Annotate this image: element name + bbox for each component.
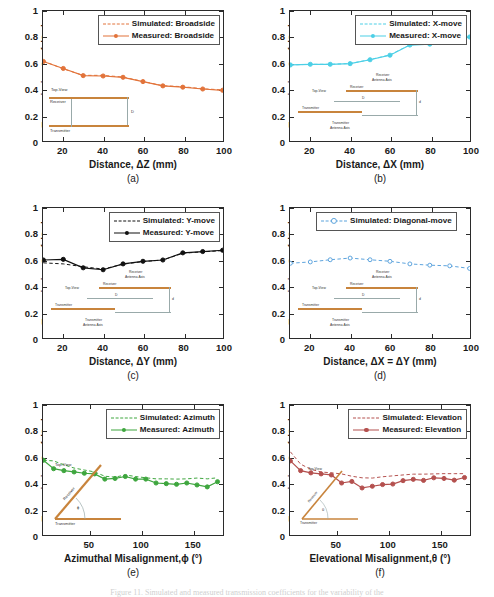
legend: Simulated: ElevationMeasured: Elevation bbox=[348, 409, 467, 439]
x-tick-label: 150 bbox=[432, 539, 448, 550]
inset-distance-arrow bbox=[127, 97, 128, 127]
data-point-marker bbox=[121, 262, 125, 266]
data-point-marker bbox=[421, 478, 425, 482]
inset-label-distance: D bbox=[362, 96, 364, 100]
inset-label-transmitter: Transmitter bbox=[302, 106, 319, 110]
data-point-marker bbox=[185, 481, 189, 485]
data-point-marker bbox=[201, 87, 205, 91]
inset-label-transmitter: Transmitter bbox=[50, 128, 70, 133]
legend-label: Measured: Broadside bbox=[132, 30, 214, 42]
data-point-marker bbox=[42, 258, 45, 262]
inset-label-top-view: Top-View bbox=[51, 87, 67, 92]
data-point-marker bbox=[348, 256, 352, 260]
figure-panel-grid: Transmission Coef.,|S21| Top-ViewReceive… bbox=[0, 0, 494, 597]
panel-c-label: (c) bbox=[127, 370, 139, 381]
legend: Simulated: Diagonal-move bbox=[316, 212, 457, 231]
data-point-marker bbox=[448, 264, 452, 268]
x-tick-label: 20 bbox=[304, 342, 315, 353]
legend-label: Measured: Azimuth bbox=[140, 424, 214, 436]
y-tick-label: 1 bbox=[280, 5, 285, 16]
x-tick-label: 60 bbox=[385, 342, 396, 353]
legend-item: Simulated: Elevation bbox=[353, 412, 462, 424]
inset-diagram-xmove: ReceiverAntenna AxisTop-ViewReceiverDTra… bbox=[298, 73, 428, 135]
series-line bbox=[43, 250, 222, 270]
y-tick-label: 0.8 bbox=[272, 425, 285, 436]
data-point-marker bbox=[368, 58, 372, 62]
data-point-marker bbox=[348, 62, 352, 66]
data-point-marker bbox=[289, 63, 292, 67]
y-tick-label: 0.2 bbox=[272, 307, 285, 318]
panel-c-axes: ReceiverAntenna AxisTop-ViewReceiverDTra… bbox=[42, 207, 224, 339]
panel-e: Transmission Coef.,|S21| Top-ViewReceive… bbox=[0, 394, 247, 597]
data-point-marker bbox=[181, 251, 185, 255]
data-point-marker bbox=[289, 261, 292, 265]
legend-swatch bbox=[353, 425, 379, 434]
data-point-marker bbox=[205, 485, 209, 489]
y-tick-label: 0.2 bbox=[25, 504, 38, 515]
x-tick-label: 100 bbox=[216, 342, 232, 353]
legend-swatch bbox=[360, 19, 386, 28]
panel-c: Transmission Coef.,|S21| ReceiverAntenna… bbox=[0, 197, 247, 394]
data-point-marker bbox=[141, 80, 145, 84]
inset-label-receiver: Receiver bbox=[350, 85, 363, 89]
inset-label-receiver: Receiver bbox=[103, 282, 116, 286]
inset-label-offset: d bbox=[419, 297, 421, 301]
data-point-marker bbox=[452, 478, 456, 482]
legend-item: Measured: Y-move bbox=[114, 227, 215, 239]
legend: Simulated: AzimuthMeasured: Azimuth bbox=[106, 409, 220, 439]
data-point-marker bbox=[181, 85, 185, 89]
inset-label-rx-axis-2: Antenna Axis bbox=[372, 275, 392, 279]
data-point-marker bbox=[221, 88, 224, 92]
panel-b-plot: Transmission Coef.,|S21| ReceiverAntenna… bbox=[289, 10, 471, 142]
inset-axis-extension bbox=[362, 115, 418, 116]
legend-label: Simulated: Y-move bbox=[143, 215, 215, 227]
x-tick-label: 80 bbox=[425, 342, 436, 353]
inset-label-tx-axis-1: Transmitter bbox=[85, 318, 102, 322]
y-tick-label: 0 bbox=[280, 531, 285, 542]
panel-b-label: (b) bbox=[374, 173, 386, 184]
inset-distance-arrow bbox=[87, 298, 153, 299]
x-tick-label: 60 bbox=[385, 145, 396, 156]
inset-receiver-bar bbox=[346, 287, 418, 289]
legend-swatch bbox=[103, 31, 129, 40]
y-tick-label: 0.8 bbox=[272, 31, 285, 42]
legend: Simulated: X-moveMeasured: X-move bbox=[355, 15, 467, 45]
data-point-marker bbox=[121, 75, 125, 79]
y-tick-label: 0.4 bbox=[272, 281, 285, 292]
inset-transmitter-bar bbox=[49, 125, 129, 127]
inset-label-top-view: Top-View bbox=[312, 286, 326, 290]
inset-diagram-azimuth: Top-ViewReceiverϕTransmitter bbox=[49, 461, 145, 533]
panel-f-plot: Transmission Coef.,|S21| Top-ViewReceive… bbox=[289, 404, 471, 536]
y-tick-label: 0.8 bbox=[272, 228, 285, 239]
inset-label-rx-axis-1: Receiver bbox=[376, 270, 389, 274]
inset-label-transmitter: Transmitter bbox=[302, 303, 319, 307]
data-point-marker bbox=[462, 475, 466, 479]
panel-f-axes: Top-ViewReceiverθTransmitterSimulated: E… bbox=[289, 404, 471, 536]
panel-a-axes: Top-ViewReceiverDTransmitterSimulated: B… bbox=[42, 10, 224, 142]
y-tick-label: 1 bbox=[280, 399, 285, 410]
inset-label-distance: D bbox=[362, 293, 364, 297]
inset-offset-arrow bbox=[416, 287, 417, 313]
data-point-marker bbox=[221, 248, 224, 252]
inset-distance-arrow bbox=[334, 298, 400, 299]
figure-caption: Figure 11. Simulated and measured transm… bbox=[0, 588, 494, 597]
data-point-marker bbox=[61, 257, 65, 261]
inset-label-offset: d bbox=[419, 100, 421, 104]
data-point-marker bbox=[442, 476, 446, 480]
y-tick-label: 0 bbox=[280, 137, 285, 148]
y-tick-label: 1 bbox=[33, 399, 38, 410]
y-tick-label: 0 bbox=[280, 334, 285, 345]
x-tick-label: 50 bbox=[84, 539, 95, 550]
y-tick-label: 0.6 bbox=[25, 254, 38, 265]
x-tick-label: 40 bbox=[344, 342, 355, 353]
x-tick-label: 80 bbox=[178, 342, 189, 353]
legend-label: Measured: Elevation bbox=[382, 424, 461, 436]
data-point-marker bbox=[141, 259, 145, 263]
panel-d-label: (d) bbox=[374, 370, 386, 381]
x-tick-label: 80 bbox=[178, 145, 189, 156]
panel-f-xlabel: Elevational Misalignment,θ (°) bbox=[309, 553, 450, 564]
data-point-marker bbox=[411, 477, 415, 481]
legend-item: Simulated: Diagonal-move bbox=[321, 215, 452, 227]
inset-label-rx-axis-1: Receiver bbox=[376, 73, 389, 77]
x-tick-label: 100 bbox=[380, 539, 396, 550]
